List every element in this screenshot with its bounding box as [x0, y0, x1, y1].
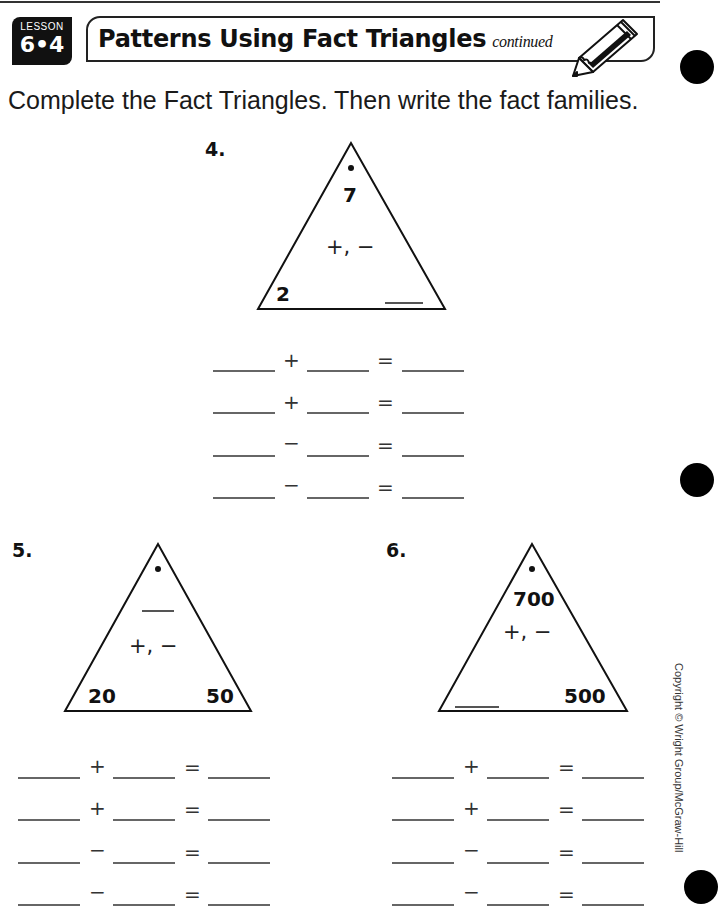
- ff5-r4-op: −: [89, 882, 106, 902]
- ff4-r1-eq: =: [377, 350, 394, 370]
- ff6-r2-op: +: [463, 798, 480, 818]
- ff6-r3-eq: =: [558, 842, 575, 862]
- ff4-r3-op: −: [283, 433, 300, 453]
- triangle-6-top: 700: [513, 587, 555, 611]
- ff5-r2-op: +: [89, 798, 106, 818]
- ff4-r2-a[interactable]: [213, 412, 275, 414]
- ff5-r3-b[interactable]: [113, 862, 175, 864]
- ff6-r4-b[interactable]: [487, 904, 549, 906]
- problem-number-5: 5.: [12, 539, 32, 561]
- ff5-r1-c[interactable]: [208, 777, 270, 779]
- ff4-r3-a[interactable]: [213, 455, 275, 457]
- ff4-r1-b[interactable]: [307, 370, 369, 372]
- ff4-r2-op: +: [283, 392, 300, 412]
- triangle-4-bottom-left: 2: [276, 282, 290, 306]
- ff4-r4-b[interactable]: [307, 497, 369, 499]
- triangle-4-operations: +, −: [326, 235, 375, 259]
- ff5-r4-b[interactable]: [113, 904, 175, 906]
- ff4-r4-a[interactable]: [213, 497, 275, 499]
- ff4-r1-a[interactable]: [213, 370, 275, 372]
- ff6-r3-op: −: [463, 840, 480, 860]
- ff6-r2-c[interactable]: [582, 819, 644, 821]
- ff4-r1-c[interactable]: [402, 370, 464, 372]
- ff4-r4-op: −: [283, 475, 300, 495]
- ff6-r1-c[interactable]: [582, 777, 644, 779]
- ff6-r2-a[interactable]: [392, 819, 454, 821]
- ff4-r4-eq: =: [377, 477, 394, 497]
- ff6-r3-c[interactable]: [582, 862, 644, 864]
- problem-number-6: 6.: [386, 539, 406, 561]
- ff4-r1-op: +: [283, 350, 300, 370]
- triangle-5-top-blank[interactable]: [142, 610, 174, 612]
- ff4-r3-eq: =: [377, 435, 394, 455]
- ff4-r4-c[interactable]: [402, 497, 464, 499]
- triangle-5-bottom-left: 20: [88, 684, 116, 708]
- ff6-r1-a[interactable]: [392, 777, 454, 779]
- ff6-r4-c[interactable]: [582, 904, 644, 906]
- ff6-r1-op: +: [463, 756, 480, 776]
- ff5-r3-a[interactable]: [18, 862, 80, 864]
- ff6-r4-op: −: [463, 882, 480, 902]
- triangle-4-bottom-right-blank[interactable]: [385, 302, 423, 304]
- ff5-r4-eq: =: [184, 884, 201, 904]
- ff5-r4-a[interactable]: [18, 904, 80, 906]
- ff6-r1-eq: =: [558, 757, 575, 777]
- ff5-r1-b[interactable]: [113, 777, 175, 779]
- ff6-r2-b[interactable]: [487, 819, 549, 821]
- ff6-r1-b[interactable]: [487, 777, 549, 779]
- ff6-r4-eq: =: [558, 884, 575, 904]
- ff5-r3-op: −: [89, 840, 106, 860]
- triangle-6-operations: +, −: [503, 620, 552, 644]
- triangle-5-bottom-right: 50: [206, 684, 234, 708]
- ff5-r1-op: +: [89, 756, 106, 776]
- triangle-5-operations: +, −: [129, 634, 178, 658]
- triangle-4-top: 7: [343, 183, 357, 207]
- ff5-r4-c[interactable]: [208, 904, 270, 906]
- ff5-r2-c[interactable]: [208, 819, 270, 821]
- ff6-r4-a[interactable]: [392, 904, 454, 906]
- ff4-r3-c[interactable]: [402, 455, 464, 457]
- ff4-r2-c[interactable]: [402, 412, 464, 414]
- ff4-r2-b[interactable]: [307, 412, 369, 414]
- ff5-r2-a[interactable]: [18, 819, 80, 821]
- ff5-r1-eq: =: [184, 757, 201, 777]
- ff5-r3-c[interactable]: [208, 862, 270, 864]
- ff6-r2-eq: =: [558, 799, 575, 819]
- triangle-6-bottom-left-blank[interactable]: [455, 706, 499, 708]
- ff4-r3-b[interactable]: [307, 455, 369, 457]
- ff6-r3-b[interactable]: [487, 862, 549, 864]
- ff5-r2-eq: =: [184, 799, 201, 819]
- triangle-dot-4: [348, 165, 354, 171]
- ff5-r1-a[interactable]: [18, 777, 80, 779]
- ff4-r2-eq: =: [377, 392, 394, 412]
- ff5-r2-b[interactable]: [113, 819, 175, 821]
- triangle-6-bottom-right: 500: [564, 684, 606, 708]
- ff5-r3-eq: =: [184, 842, 201, 862]
- ff6-r3-a[interactable]: [392, 862, 454, 864]
